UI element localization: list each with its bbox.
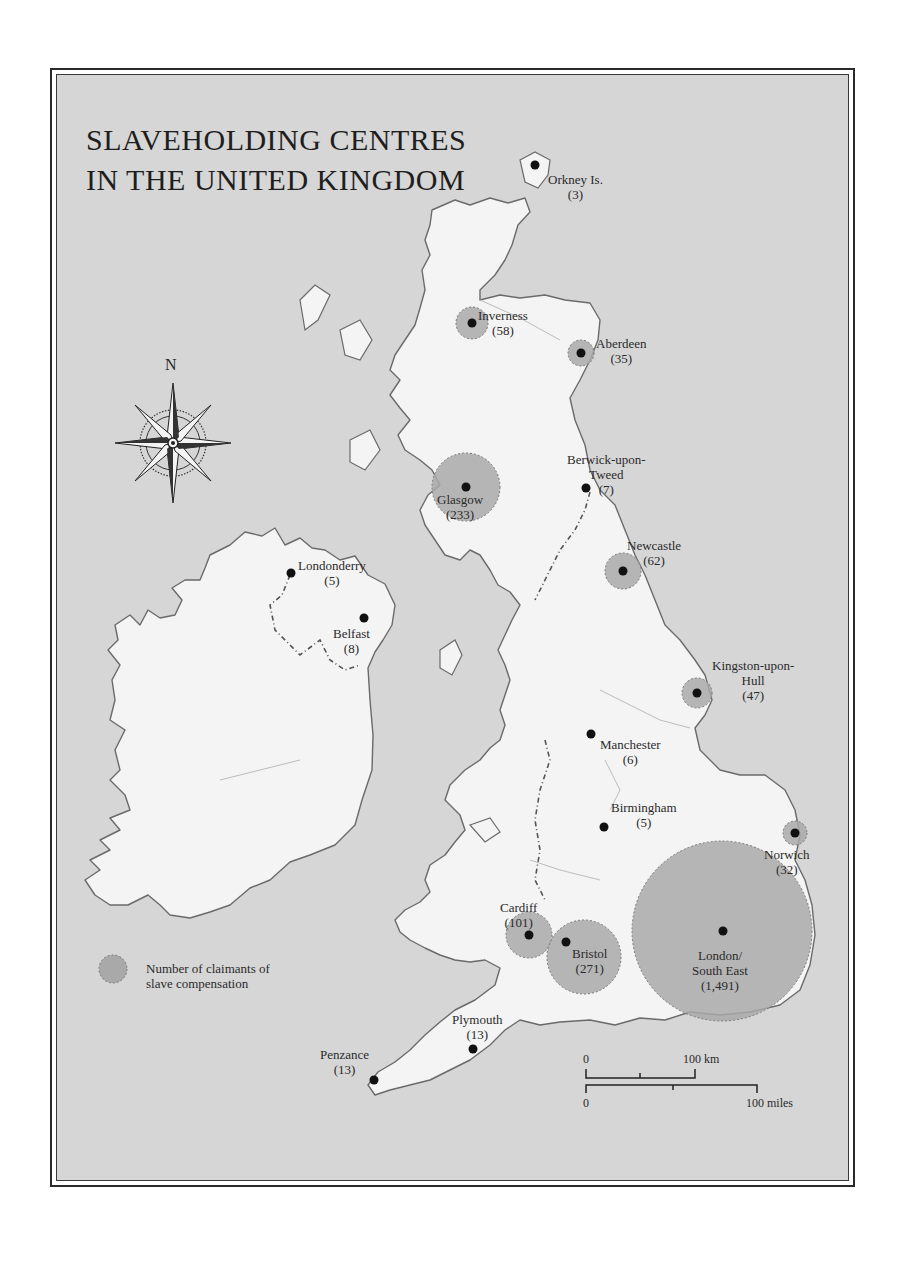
- map-title-line2: IN THE UNITED KINGDOM: [86, 160, 466, 200]
- label-birmingham: Birmingham (5): [611, 800, 677, 830]
- label-plymouth: Plymouth (13): [452, 1012, 503, 1042]
- label-norwich: Norwich (32): [764, 847, 810, 877]
- dot-belfast: [360, 614, 369, 623]
- label-aberdeen: Aberdeen (35): [596, 336, 647, 366]
- scale-miles-start: 0: [583, 1096, 589, 1111]
- label-londonderry: Londonderry (5): [298, 558, 366, 588]
- label-newcastle: Newcastle (62): [627, 538, 681, 568]
- legend-symbol: [99, 955, 127, 983]
- compass-rose-icon: [115, 383, 231, 503]
- scale-km-end: 100 km: [683, 1052, 719, 1067]
- label-penzance: Penzance (13): [320, 1047, 369, 1077]
- dot-cardiff: [525, 931, 534, 940]
- scale-miles-end: 100 miles: [746, 1096, 793, 1111]
- dot-bristol: [562, 938, 571, 947]
- dot-hull: [693, 689, 702, 698]
- label-glasgow: Glasgow (233): [437, 492, 483, 522]
- label-manchester: Manchester (6): [600, 737, 661, 767]
- map-title-line1: SLAVEHOLDING CENTRES: [86, 120, 466, 160]
- dot-birmingham: [600, 823, 609, 832]
- label-bristol: Bristol (271): [572, 946, 607, 976]
- dot-inverness: [468, 319, 477, 328]
- map-title: SLAVEHOLDING CENTRES IN THE UNITED KINGD…: [86, 120, 466, 200]
- dot-manchester: [587, 730, 596, 739]
- dot-plymouth: [469, 1045, 478, 1054]
- label-hull: Kingston-upon- Hull (47): [712, 658, 794, 703]
- dot-london: [719, 927, 728, 936]
- dot-aberdeen: [577, 349, 586, 358]
- dot-norwich: [791, 829, 800, 838]
- dot-penzance: [370, 1076, 379, 1085]
- scale-km-start: 0: [583, 1052, 589, 1067]
- label-cardiff: Cardiff (101): [500, 900, 537, 930]
- label-inverness: Inverness (58): [478, 308, 528, 338]
- label-london-south-east: London/ South East (1,491): [692, 948, 748, 993]
- legend-label: Number of claimants of slave compensatio…: [146, 961, 270, 991]
- dot-londonderry: [287, 569, 296, 578]
- label-belfast: Belfast (8): [333, 626, 370, 656]
- label-berwick: Berwick-upon- Tweed (7): [567, 452, 646, 497]
- dot-orkney: [531, 161, 540, 170]
- label-orkney: Orkney Is. (3): [548, 172, 603, 202]
- dot-glasgow: [462, 483, 471, 492]
- scale-bar: [586, 1069, 757, 1093]
- north-label: N: [165, 356, 177, 374]
